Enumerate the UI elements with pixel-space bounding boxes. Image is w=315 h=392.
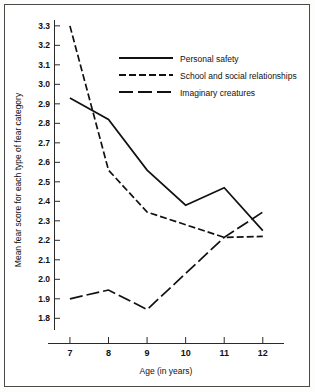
chart-legend: Personal safetySchool and social relatio… <box>119 54 297 98</box>
x-axis-title: Age (in years) <box>140 366 193 376</box>
y-tick-label-3.0: 3.0 <box>38 79 50 89</box>
y-tick-label-3.2: 3.2 <box>38 40 50 50</box>
series-line-personal-safety <box>70 98 263 231</box>
figure-container: 1.81.92.02.12.22.32.42.52.62.72.82.93.03… <box>0 0 315 392</box>
y-tick-label-2.4: 2.4 <box>38 196 50 206</box>
y-tick-label-2.2: 2.2 <box>38 235 50 245</box>
data-series-group <box>70 26 263 310</box>
y-tick-label-2.8: 2.8 <box>38 118 50 128</box>
y-tick-label-1.8: 1.8 <box>38 313 50 323</box>
y-axis-tick-labels: 1.81.92.02.12.22.32.42.52.62.72.82.93.03… <box>38 21 50 323</box>
x-tick-label-10: 10 <box>181 348 191 358</box>
y-tick-label-1.9: 1.9 <box>38 294 50 304</box>
series-line-imaginary-creatures <box>70 212 263 309</box>
y-tick-label-2.1: 2.1 <box>38 255 50 265</box>
x-axis-tick-labels: 789101112 <box>67 348 267 358</box>
x-axis-ticks <box>70 337 263 344</box>
x-tick-label-11: 11 <box>219 348 229 358</box>
line-chart: 1.81.92.02.12.22.32.42.52.62.72.82.93.03… <box>0 0 315 392</box>
y-tick-label-3.3: 3.3 <box>38 21 50 31</box>
legend-label-imaginary-creatures: Imaginary creatures <box>180 88 255 98</box>
x-tick-label-7: 7 <box>67 348 72 358</box>
x-tick-label-12: 12 <box>258 348 268 358</box>
y-axis-ticks <box>55 26 61 318</box>
y-tick-label-2.5: 2.5 <box>38 177 50 187</box>
x-tick-label-8: 8 <box>106 348 111 358</box>
y-tick-label-2.0: 2.0 <box>38 274 50 284</box>
y-tick-label-2.6: 2.6 <box>38 157 50 167</box>
legend-label-school-and-social-relationships: School and social relationships <box>180 71 297 81</box>
y-tick-label-2.7: 2.7 <box>38 138 50 148</box>
y-tick-label-3.1: 3.1 <box>38 60 50 70</box>
y-tick-label-2.9: 2.9 <box>38 99 50 109</box>
x-tick-label-9: 9 <box>145 348 150 358</box>
legend-label-personal-safety: Personal safety <box>180 54 239 64</box>
y-tick-label-2.3: 2.3 <box>38 216 50 226</box>
y-axis-title: Mean fear score for each type of fear ca… <box>13 92 23 267</box>
